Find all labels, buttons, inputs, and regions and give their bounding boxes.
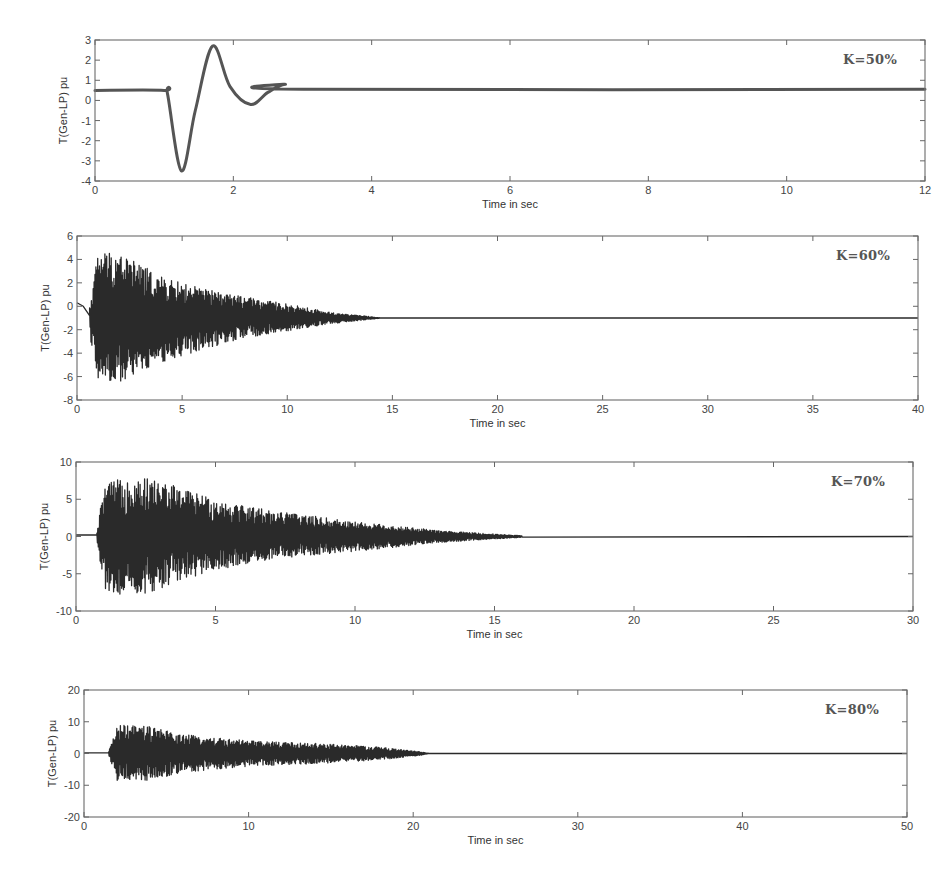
y-axis-title: T(Gen-LP) pu (46, 720, 58, 787)
x-tick-label: 10 (781, 184, 793, 196)
x-tick-label: 10 (242, 820, 254, 832)
x-tick-label: 5 (179, 403, 185, 415)
y-tick-label: -8 (63, 394, 73, 406)
y-tick-label: 0 (74, 748, 80, 760)
x-tick-label: 8 (645, 184, 651, 196)
y-tick-label: 0 (85, 94, 91, 106)
x-tick-label: 30 (907, 614, 919, 626)
y-tick-label: 0 (66, 531, 72, 543)
y-tick-label: 20 (68, 684, 80, 696)
k-value-annotation: K=80% (825, 702, 879, 717)
y-tick-label: 3 (85, 34, 91, 46)
x-tick-label: 30 (572, 820, 584, 832)
x-tick-label: 40 (912, 403, 924, 415)
x-tick-label: 50 (901, 820, 913, 832)
x-tick-label: 15 (488, 614, 500, 626)
y-tick-label: -10 (64, 779, 80, 791)
y-tick-label: 6 (67, 230, 73, 242)
x-axis-title: Time in sec (482, 198, 538, 210)
x-tick-label: 15 (386, 403, 398, 415)
y-tick-label: -3 (81, 155, 91, 167)
k-value-annotation: K=60% (836, 248, 890, 263)
x-tick-label: 10 (281, 403, 293, 415)
x-tick-label: 30 (702, 403, 714, 415)
y-tick-label: -4 (63, 347, 73, 359)
y-tick-label: -5 (62, 568, 72, 580)
x-tick-label: 25 (767, 614, 779, 626)
y-tick-label: 10 (68, 716, 80, 728)
k-value-annotation: K=70% (831, 474, 885, 489)
y-tick-label: 2 (67, 277, 73, 289)
x-tick-label: 5 (212, 614, 218, 626)
subplot-k50: 0246810123210-1-2-3-4Time in secT(Gen-LP… (57, 34, 931, 210)
x-tick-label: 40 (736, 820, 748, 832)
y-tick-label: -20 (64, 811, 80, 823)
x-tick-label: 12 (919, 184, 931, 196)
y-tick-label: -2 (81, 135, 91, 147)
subplot-k70: 0510152025301050-5-10Time in secT(Gen-LP… (38, 456, 919, 640)
x-tick-label: 20 (491, 403, 503, 415)
y-tick-label: 4 (67, 253, 73, 265)
x-tick-label: 6 (507, 184, 513, 196)
subplot-k60: 05101520253035406420-2-4-6-8Time in secT… (39, 230, 924, 429)
x-tick-label: 25 (597, 403, 609, 415)
x-tick-label: 20 (628, 614, 640, 626)
x-tick-label: 0 (73, 614, 79, 626)
x-tick-label: 20 (407, 820, 419, 832)
x-axis-title: Time in sec (470, 417, 526, 429)
y-tick-label: -2 (63, 324, 73, 336)
y-tick-label: -4 (81, 175, 91, 187)
x-tick-label: 4 (369, 184, 375, 196)
x-tick-label: 0 (81, 820, 87, 832)
y-tick-label: 10 (60, 456, 72, 468)
y-axis-title: T(Gen-LP) pu (39, 284, 51, 351)
y-tick-label: 1 (85, 74, 91, 86)
figure: 0246810123210-1-2-3-4Time in secT(Gen-LP… (0, 0, 952, 885)
x-tick-label: 10 (349, 614, 361, 626)
x-axis-title: Time in sec (467, 628, 523, 640)
k-value-annotation: K=50% (843, 52, 897, 67)
y-tick-label: -1 (81, 115, 91, 127)
y-axis-title: T(Gen-LP) pu (38, 503, 50, 570)
y-tick-label: -6 (63, 371, 73, 383)
x-axis-title: Time in sec (468, 834, 524, 846)
y-tick-label: 2 (85, 54, 91, 66)
y-tick-label: 5 (66, 493, 72, 505)
x-tick-label: 0 (74, 403, 80, 415)
y-tick-label: -10 (56, 605, 72, 617)
subplot-k80: 0102030405020100-10-20Time in secT(Gen-L… (46, 684, 913, 846)
y-tick-label: 0 (67, 300, 73, 312)
x-tick-label: 2 (230, 184, 236, 196)
x-tick-label: 35 (807, 403, 819, 415)
x-tick-label: 0 (92, 184, 98, 196)
y-axis-title: T(Gen-LP) pu (57, 77, 69, 144)
